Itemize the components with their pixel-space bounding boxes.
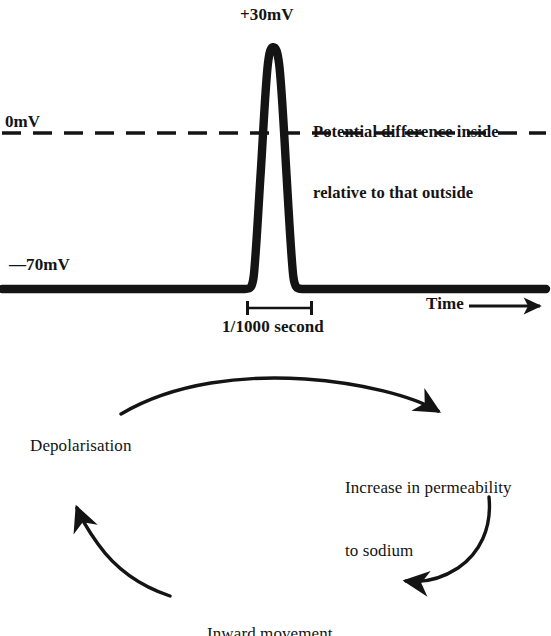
arrow-depolarisation-to-permeability [121,378,438,414]
duration-scale-bar [247,301,312,315]
cycle-node-depolarisation: Depolarisation [30,436,131,455]
zero-voltage-label: 0mV [5,112,40,131]
cycle-node-increase-permeability-line-1: Increase in permeability [345,477,512,498]
duration-label: 1/1000 second [222,317,324,336]
cycle-node-increase-permeability-line-2: to sodium [345,540,512,561]
potential-difference-annotation: Potential difference inside relative to … [313,82,499,243]
resting-voltage-label: —70mV [9,255,70,274]
time-axis-label: Time [426,294,464,313]
arrow-inward-to-depolarisation [77,508,170,596]
potential-difference-line-1: Potential difference inside [313,122,499,142]
action-potential-figure: +30mV 0mV —70mV Potential difference ins… [0,0,551,636]
cycle-node-inward-movement: Inward movement of sodium [207,581,333,636]
cycle-node-inward-movement-line-1: Inward movement [207,623,333,636]
potential-difference-line-2: relative to that outside [313,183,499,203]
cycle-node-increase-permeability: Increase in permeability to sodium [345,435,512,604]
peak-voltage-label: +30mV [240,5,294,24]
